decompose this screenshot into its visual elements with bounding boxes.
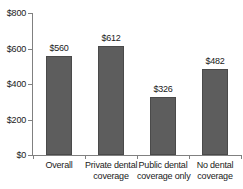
bar[interactable]	[98, 46, 124, 155]
x-axis-tick-mark	[189, 155, 190, 159]
y-axis-tick-mark	[28, 49, 33, 50]
x-axis-category-line: No dental	[189, 160, 241, 171]
x-axis-tick-mark	[241, 155, 242, 159]
y-axis-tick-label: $400	[7, 79, 26, 89]
y-axis-tick-mark	[28, 120, 33, 121]
x-axis-category-line: Public dental	[137, 160, 189, 171]
y-axis-tick-label: $800	[7, 8, 26, 18]
bar-chart: $0$200$400$600$800 $560$612$326$482 Over…	[0, 0, 243, 189]
bar[interactable]	[46, 56, 72, 155]
y-axis-tick-label: $0	[16, 150, 26, 160]
plot-area: $560$612$326$482	[33, 13, 241, 155]
bar[interactable]	[150, 97, 176, 155]
bar-group: $482	[202, 13, 228, 155]
x-axis-category-line: coverage	[189, 171, 241, 182]
x-axis-category-label: No dentalcoverage	[189, 160, 241, 182]
x-axis-category-label: Overall	[33, 160, 85, 171]
bar-group: $326	[150, 13, 176, 155]
y-axis-tick-mark	[28, 13, 33, 14]
y-axis-tick-mark	[28, 84, 33, 85]
x-axis-category-label: Private dentalcoverage	[85, 160, 137, 182]
bar-group: $560	[46, 13, 72, 155]
bar[interactable]	[202, 69, 228, 155]
x-axis: OverallPrivate dentalcoveragePublic dent…	[33, 160, 241, 189]
bar-value-label: $612	[101, 33, 120, 43]
bar-value-label: $482	[205, 56, 224, 66]
y-axis-tick-label: $200	[7, 115, 26, 125]
y-axis-tick-label: $600	[7, 44, 26, 54]
bar-value-label: $326	[153, 84, 172, 94]
x-axis-category-line: coverage only	[137, 171, 189, 182]
x-axis-category-label: Public dentalcoverage only	[137, 160, 189, 182]
bar-group: $612	[98, 13, 124, 155]
x-axis-category-line: Private dental	[85, 160, 137, 171]
y-axis: $0$200$400$600$800	[0, 0, 30, 160]
x-axis-tick-mark	[33, 155, 34, 159]
bar-value-label: $560	[49, 43, 68, 53]
x-axis-category-line: Overall	[33, 160, 85, 171]
x-axis-tick-mark	[137, 155, 138, 159]
x-axis-category-line: coverage	[85, 171, 137, 182]
x-axis-tick-mark	[85, 155, 86, 159]
